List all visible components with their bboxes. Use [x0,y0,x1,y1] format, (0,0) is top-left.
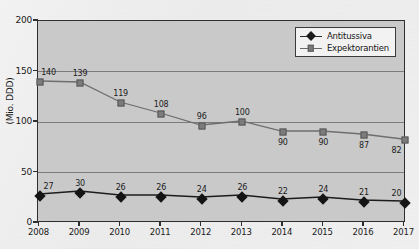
x-tick-mark [200,222,201,226]
chart-figure: (Mio. DDD) 050100150200 2730262624262224… [0,0,419,249]
x-tick-mark [281,222,282,226]
x-tick-mark [362,222,363,226]
data-label: 26 [237,183,247,192]
square-marker-icon [401,137,408,144]
x-tick-label: 2014 [265,227,299,237]
diamond-marker-icon [306,31,316,41]
data-label: 87 [359,141,369,150]
chart-legend[interactable]: Antitussiva Expektorantien [295,27,396,57]
y-tick-label: 200 [6,15,32,25]
square-marker-icon [239,119,246,126]
x-tick-mark [38,222,39,226]
series-line-antitussiva [39,191,402,201]
square-marker-icon [198,123,205,130]
data-label: 90 [278,138,288,147]
data-label: 30 [75,179,85,188]
legend-label-antitussiva: Antitussiva [327,31,372,41]
x-tick-label: 2012 [184,227,218,237]
square-marker-icon [36,78,43,85]
data-label: 119 [113,89,128,98]
x-tick-label: 2013 [224,227,258,237]
x-tick-mark [119,222,120,226]
x-tick-label: 2015 [305,227,339,237]
square-marker-icon [279,129,286,136]
data-label: 24 [318,185,328,194]
legend-line-expektorantien [300,44,322,53]
series-line-expektorantien [39,81,402,139]
data-label: 100 [235,108,250,117]
y-tick-label: 0 [6,217,32,227]
data-label: 27 [44,182,54,191]
data-label: 139 [73,69,88,78]
x-tick-mark [159,222,160,226]
data-label: 140 [41,68,56,77]
data-label: 82 [392,146,402,155]
y-tick-label: 100 [6,116,32,126]
square-marker-icon [308,45,315,52]
x-tick-label: 2010 [103,227,137,237]
data-label: 96 [197,112,207,121]
plot-area: 2730262624262224212014013911910896100909… [37,20,405,222]
square-marker-icon [360,132,367,139]
x-tick-mark [403,222,404,226]
x-tick-mark [241,222,242,226]
data-label: 20 [392,189,402,198]
y-tick-label: 150 [6,66,32,76]
data-label: 90 [318,138,328,147]
x-tick-label: 2017 [387,227,419,237]
data-label: 108 [154,100,169,109]
legend-item-expektorantien[interactable]: Expektorantien [300,43,389,53]
x-tick-label: 2016 [346,227,380,237]
data-label: 26 [156,183,166,192]
data-label: 22 [278,187,288,196]
x-tick-mark [78,222,79,226]
data-label: 24 [197,185,207,194]
x-tick-label: 2011 [143,227,177,237]
x-tick-mark [322,222,323,226]
square-marker-icon [158,110,165,117]
legend-label-expektorantien: Expektorantien [327,43,389,53]
y-tick-label: 50 [6,167,32,177]
data-label: 21 [359,188,369,197]
square-marker-icon [320,129,327,136]
data-label: 26 [116,183,126,192]
square-marker-icon [117,99,124,106]
square-marker-icon [77,79,84,86]
legend-item-antitussiva[interactable]: Antitussiva [300,31,389,41]
x-tick-label: 2009 [62,227,96,237]
x-tick-label: 2008 [22,227,56,237]
legend-line-antitussiva [300,32,322,41]
